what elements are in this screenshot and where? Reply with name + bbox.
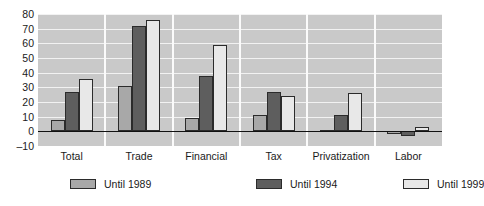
bar — [51, 120, 65, 132]
bar — [79, 79, 93, 132]
legend-item[interactable]: Until 1994 — [256, 176, 337, 192]
x-axis-label-financial: Financial — [173, 149, 240, 163]
bar — [334, 115, 348, 131]
bar — [253, 115, 267, 131]
bar — [132, 26, 146, 132]
bar — [65, 92, 79, 132]
y-axis-tick: 70 — [22, 23, 34, 34]
bar-group — [375, 14, 442, 146]
x-axis-label-labor: Labor — [375, 149, 442, 163]
bar-group — [307, 14, 374, 146]
bar-group — [173, 14, 240, 146]
y-axis: 80706050403020100–10 — [0, 14, 38, 146]
legend-item[interactable]: Until 1999 — [403, 176, 484, 192]
bar — [185, 118, 199, 131]
y-axis-tick: 20 — [22, 97, 34, 108]
y-axis-tick: 0 — [28, 126, 34, 137]
legend-swatch-icon — [256, 179, 282, 189]
bar-group — [240, 14, 307, 146]
bar-group — [105, 14, 172, 146]
y-axis-tick: 60 — [22, 38, 34, 49]
y-axis-tick: 40 — [22, 67, 34, 78]
x-axis-label-tax: Tax — [240, 149, 307, 163]
x-axis-label-total: Total — [38, 149, 105, 163]
bar — [118, 86, 132, 131]
bar — [267, 92, 281, 132]
legend-swatch-icon — [70, 179, 96, 189]
x-axis-label-privatization: Privatization — [307, 149, 374, 163]
bar — [199, 76, 213, 132]
y-axis-tick: 80 — [22, 9, 34, 20]
legend-label: Until 1989 — [104, 179, 151, 190]
legend-swatch-icon — [403, 179, 429, 189]
bar-group — [38, 14, 105, 146]
x-axis-label-trade: Trade — [105, 149, 172, 163]
y-axis-tick: –10 — [16, 141, 34, 152]
legend-label: Until 1994 — [290, 179, 337, 190]
y-axis-tick: 50 — [22, 53, 34, 64]
bar — [146, 20, 160, 131]
chart-legend: Until 1989Until 1994Until 1999 — [38, 176, 442, 196]
legend-item[interactable]: Until 1989 — [70, 176, 151, 192]
x-axis-labels: TotalTradeFinancialTaxPrivatizationLabor — [38, 149, 442, 165]
y-axis-tick: 10 — [22, 111, 34, 122]
legend-label: Until 1999 — [437, 179, 484, 190]
y-axis-tick: 30 — [22, 82, 34, 93]
zero-baseline — [38, 131, 442, 133]
bar — [213, 45, 227, 132]
bar — [348, 93, 362, 131]
bar — [281, 96, 295, 131]
plot-area — [38, 14, 442, 146]
